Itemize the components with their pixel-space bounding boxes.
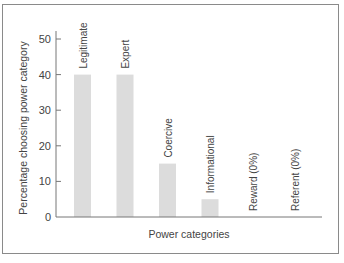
bars: LegitimateExpertCoerciveInformationalRew… [74,22,301,217]
bar-label: Legitimate [78,22,89,69]
y-tick-label: 20 [39,140,51,152]
y-tick-label: 40 [39,69,51,81]
bar-label: Reward (0%) [248,153,259,211]
y-tick-label: 30 [39,104,51,116]
y-tick-label: 50 [39,33,51,45]
bar-informational [202,199,219,217]
bar-label: Informational [205,135,216,193]
bar-chart: 01020304050 LegitimateExpertCoerciveInfo… [0,0,344,263]
bar-legitimate [74,75,91,217]
y-tick-label: 10 [39,175,51,187]
y-axis-title: Percentage choosing power category [17,41,29,215]
bar-label: Referent (0%) [290,149,301,211]
bar-label: Expert [120,39,131,68]
y-tick-label: 0 [45,211,51,223]
bar-label: Coercive [163,118,174,158]
x-axis-title: Power categories [148,228,229,240]
bar-expert [117,75,134,217]
bar-coercive [159,164,176,217]
y-axis: 01020304050 [39,31,61,223]
